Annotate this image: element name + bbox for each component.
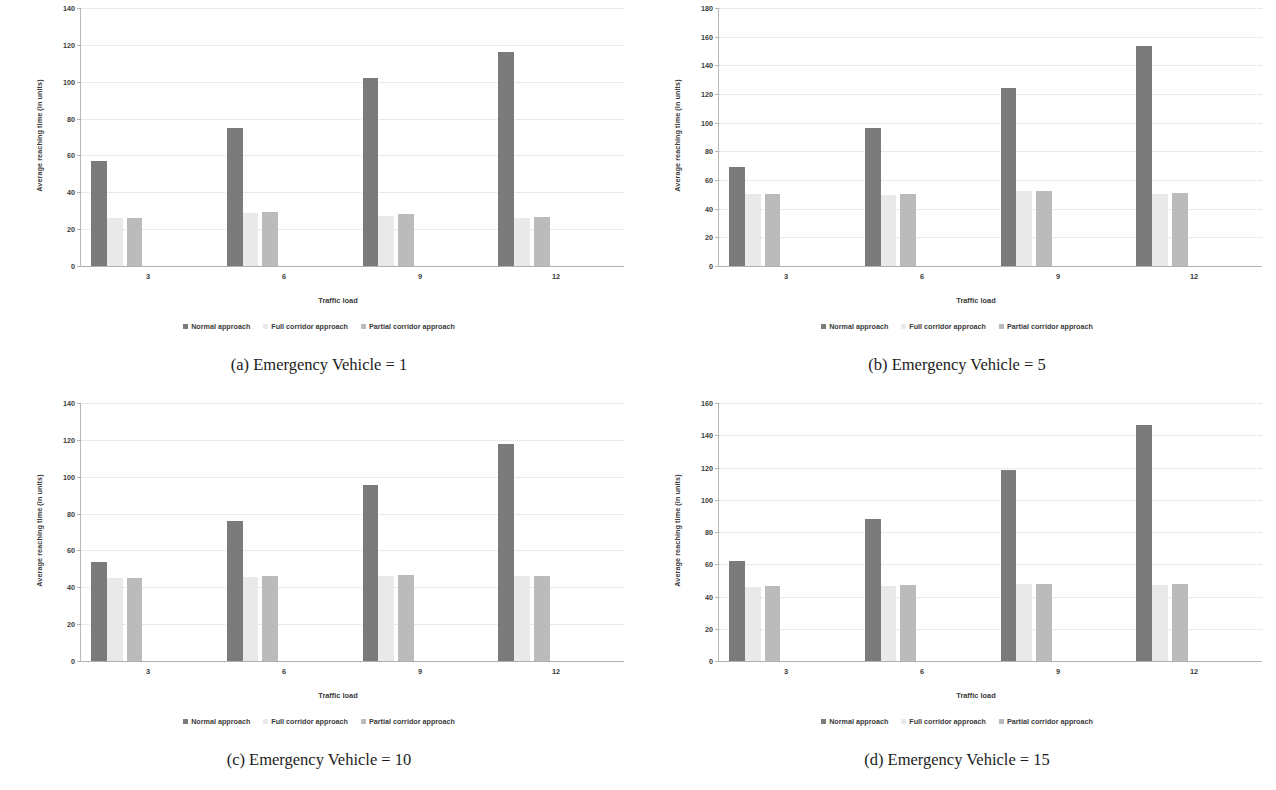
y-tick-label: 100 <box>701 118 713 127</box>
bar-group <box>217 403 353 661</box>
x-axis-title: Traffic load <box>52 296 624 305</box>
bar <box>262 576 278 661</box>
x-tick-label: 6 <box>216 667 352 679</box>
chart-panel-b: Average reaching time (in units)02040608… <box>638 0 1276 395</box>
y-axis-title-text: Average reaching time (in units) <box>35 79 44 191</box>
bar <box>262 212 278 266</box>
bar <box>534 576 550 661</box>
x-tick-label: 12 <box>1126 667 1262 679</box>
y-tick-mark <box>715 661 719 662</box>
y-tick-label: 140 <box>701 431 713 440</box>
x-tick-label: 6 <box>216 272 352 284</box>
y-axis-title-text: Average reaching time (in units) <box>673 474 682 586</box>
legend-label: Full corridor approach <box>909 322 986 331</box>
bar <box>729 561 745 661</box>
x-axis-tick-labels: 36912 <box>718 667 1262 679</box>
bar-container <box>719 403 1262 661</box>
bar-group <box>855 8 991 266</box>
y-tick-label: 100 <box>63 472 75 481</box>
bar <box>514 218 530 266</box>
legend-item[interactable]: Partial corridor approach <box>361 717 455 726</box>
y-tick-label: 0 <box>709 657 713 666</box>
legend-label: Normal approach <box>191 322 250 331</box>
legend-label: Normal approach <box>829 717 888 726</box>
legend-item[interactable]: Partial corridor approach <box>999 322 1093 331</box>
x-axis-title: Traffic load <box>690 296 1262 305</box>
chart-panel-a: Average reaching time (in units)02040608… <box>0 0 638 395</box>
bar <box>514 576 530 661</box>
plot-wrapper: 020406080100120140 <box>52 8 624 266</box>
panel-caption-d: (d) Emergency Vehicle = 15 <box>638 750 1276 770</box>
legend-item[interactable]: Normal approach <box>821 322 888 331</box>
x-tick-label: 9 <box>990 667 1126 679</box>
x-tick-label: 6 <box>854 667 990 679</box>
y-tick-label: 20 <box>705 233 713 242</box>
x-tick-label: 3 <box>718 272 854 284</box>
y-axis-title-text: Average reaching time (in units) <box>673 79 682 191</box>
bar-group <box>488 8 624 266</box>
bar <box>1036 191 1052 266</box>
bar-group <box>719 8 855 266</box>
x-tick-label: 3 <box>80 272 216 284</box>
x-axis-title: Traffic load <box>52 691 624 700</box>
axis-baseline <box>719 661 1262 662</box>
bar <box>865 519 881 661</box>
y-tick-label: 100 <box>63 77 75 86</box>
legend-item[interactable]: Full corridor approach <box>263 717 348 726</box>
bar <box>107 578 123 661</box>
legend-item[interactable]: Full corridor approach <box>901 717 986 726</box>
x-tick-label: 12 <box>1126 272 1262 284</box>
y-tick-label: 80 <box>705 528 713 537</box>
bar <box>865 128 881 266</box>
y-axis-tick-labels: 020406080100120140160 <box>690 403 716 661</box>
bar <box>127 218 143 266</box>
bar-group <box>1126 8 1262 266</box>
legend-swatch-full <box>263 719 268 724</box>
bar <box>107 218 123 266</box>
x-tick-label: 9 <box>352 667 488 679</box>
bar <box>227 521 243 661</box>
y-tick-label: 80 <box>67 114 75 123</box>
bar-group <box>81 8 217 266</box>
y-tick-label: 40 <box>67 188 75 197</box>
plot-wrapper: 020406080100120140 <box>52 403 624 661</box>
legend-item[interactable]: Normal approach <box>183 717 250 726</box>
figure-four-panel-bar-charts: Average reaching time (in units)02040608… <box>0 0 1276 790</box>
y-axis-title: Average reaching time (in units) <box>670 0 684 270</box>
y-tick-label: 60 <box>705 560 713 569</box>
chart-area-a: Average reaching time (in units)02040608… <box>0 0 638 300</box>
legend-swatch-partial <box>361 719 366 724</box>
bar-group <box>217 8 353 266</box>
y-tick-label: 60 <box>67 151 75 160</box>
legend-item[interactable]: Partial corridor approach <box>999 717 1093 726</box>
y-tick-label: 80 <box>67 509 75 518</box>
bar-group <box>353 403 489 661</box>
bar <box>91 161 107 266</box>
legend-item[interactable]: Full corridor approach <box>263 322 348 331</box>
legend-swatch-normal <box>821 719 826 724</box>
legend-label: Normal approach <box>191 717 250 726</box>
x-tick-label: 3 <box>718 667 854 679</box>
bar <box>534 217 550 266</box>
legend-item[interactable]: Full corridor approach <box>901 322 986 331</box>
legend-swatch-normal <box>821 324 826 329</box>
y-axis-title-text: Average reaching time (in units) <box>35 474 44 586</box>
axis-baseline <box>81 661 624 662</box>
y-tick-label: 20 <box>705 624 713 633</box>
x-tick-label: 9 <box>352 272 488 284</box>
legend-item[interactable]: Partial corridor approach <box>361 322 455 331</box>
y-tick-label: 0 <box>709 262 713 271</box>
legend-label: Full corridor approach <box>271 717 348 726</box>
y-tick-label: 180 <box>701 4 713 13</box>
bar-group <box>991 403 1127 661</box>
bar <box>243 577 259 661</box>
bar <box>1016 191 1032 266</box>
legend-item[interactable]: Normal approach <box>183 322 250 331</box>
y-axis-tick-labels: 020406080100120140 <box>52 403 78 661</box>
legend-swatch-partial <box>361 324 366 329</box>
x-tick-label: 12 <box>488 272 624 284</box>
legend-item[interactable]: Normal approach <box>821 717 888 726</box>
y-axis-title: Average reaching time (in units) <box>32 395 46 665</box>
bar <box>1172 584 1188 661</box>
y-tick-label: 40 <box>67 583 75 592</box>
